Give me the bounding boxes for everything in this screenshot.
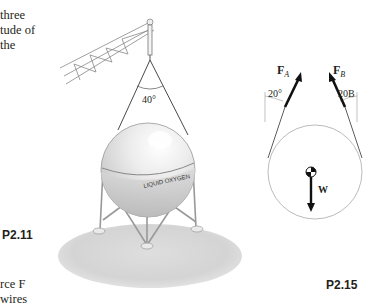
center-of-mass-symbol — [306, 167, 316, 177]
weight-label: W — [318, 184, 328, 195]
force-a-label: FA — [277, 63, 289, 79]
figure-label-p2-15: P2.15 — [326, 278, 357, 292]
force-b-label: FB — [333, 63, 345, 79]
weight-arrow — [307, 177, 315, 212]
angle-a-label: 20° — [268, 88, 282, 99]
angle-b-label: 20B — [338, 88, 355, 99]
